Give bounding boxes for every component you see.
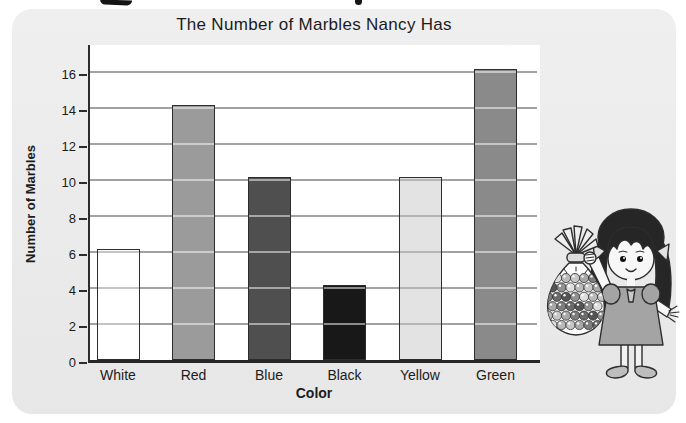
y-tick-mark — [79, 254, 87, 256]
y-tick-mark — [79, 362, 87, 364]
y-tick-mark — [79, 146, 87, 148]
y-tick-label: 0 — [42, 354, 76, 372]
y-tick-mark — [79, 326, 87, 328]
gridline — [90, 215, 537, 217]
y-tick-label: 12 — [42, 138, 76, 156]
x-category-label: Red — [159, 367, 229, 383]
y-tick-mark — [79, 74, 87, 76]
bar-red — [172, 105, 215, 360]
cropped-text-artifact — [100, 0, 132, 6]
gridline — [90, 251, 537, 253]
y-tick-mark — [79, 218, 87, 220]
chart-title: The Number of Marbles Nancy Has — [88, 15, 540, 35]
x-category-label: Black — [310, 367, 380, 383]
y-tick-mark — [79, 110, 87, 112]
gridline — [90, 287, 537, 289]
y-tick-label: 4 — [42, 282, 76, 300]
x-category-label: Blue — [234, 367, 304, 383]
x-category-label: White — [83, 367, 153, 383]
shoe-right — [635, 366, 657, 378]
bar-white — [97, 249, 140, 360]
gridline — [90, 107, 537, 109]
y-tick-label: 10 — [42, 174, 76, 192]
y-tick-mark — [79, 290, 87, 292]
gridline — [90, 323, 537, 325]
gridline — [90, 71, 537, 73]
y-tick-label: 6 — [42, 246, 76, 264]
bar-green — [474, 69, 517, 360]
y-tick-label: 2 — [42, 318, 76, 336]
gridline — [90, 143, 537, 145]
y-tick-mark — [79, 182, 87, 184]
y-tick-label: 14 — [42, 102, 76, 120]
y-tick-label: 8 — [42, 210, 76, 228]
bag-tie — [567, 253, 585, 262]
shoe-left — [606, 366, 628, 378]
x-category-label: Yellow — [385, 367, 455, 383]
x-axis-label: Color — [264, 385, 364, 401]
x-category-label: Green — [461, 367, 531, 383]
bar-black — [323, 285, 366, 360]
bar-yellow — [399, 177, 442, 360]
y-axis-label: Number of Marbles — [23, 139, 39, 269]
girl-with-marble-bag-illustration — [543, 199, 684, 385]
y-tick-label: 16 — [42, 66, 76, 84]
chart-card: The Number of Marbles Nancy Has Number o… — [12, 9, 676, 414]
plot-area — [88, 45, 540, 363]
gridline — [90, 179, 537, 181]
bar-blue — [248, 177, 291, 360]
cropped-text-artifact — [355, 0, 362, 5]
